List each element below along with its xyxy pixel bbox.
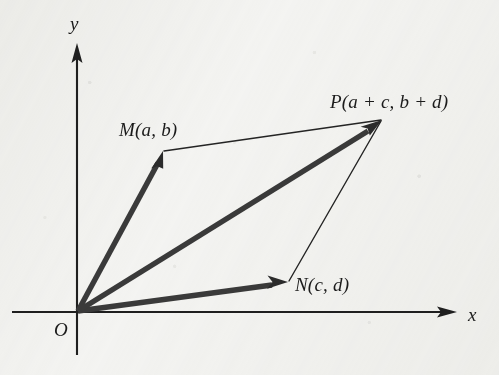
diagram-canvas	[0, 0, 499, 375]
point-label-M: M(a, b)	[119, 120, 177, 139]
origin-label: O	[54, 320, 68, 339]
point-label-P: P(a + c, b + d)	[330, 92, 448, 111]
vector-ON-shaft	[78, 285, 272, 311]
line-M-to-P	[164, 120, 381, 151]
x-axis-label: x	[468, 305, 477, 324]
point-label-N: N(c, d)	[295, 275, 349, 294]
vector-addition-figure: x y O M(a, b) N(c, d) P(a + c, b + d)	[0, 0, 499, 375]
vector-OM-arrowhead	[151, 151, 163, 169]
vector-ON-arrowhead	[267, 276, 288, 289]
line-N-to-P	[289, 121, 381, 281]
y-axis-label: y	[70, 14, 79, 33]
